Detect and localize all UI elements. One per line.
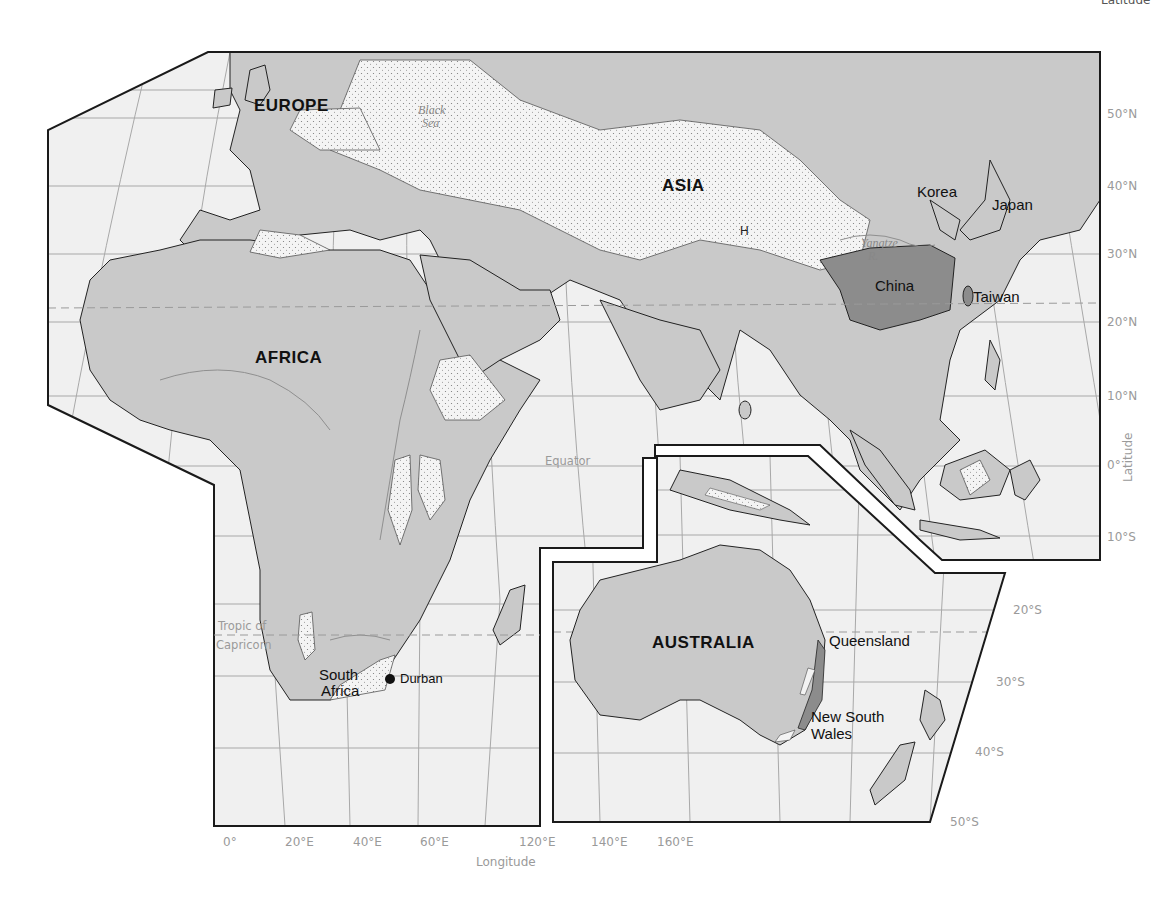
svg-text:120°E: 120°E bbox=[519, 835, 556, 849]
label-china: China bbox=[875, 277, 915, 294]
svg-text:50°S: 50°S bbox=[950, 815, 979, 829]
label-queensland: Queensland bbox=[829, 632, 910, 649]
label-black-sea-line2: Sea bbox=[422, 116, 439, 130]
label-tropic-line1: Tropic of bbox=[217, 619, 267, 633]
label-south-africa-line1: South bbox=[319, 666, 358, 683]
longitude-tick-labels: 0° 20°E 40°E 60°E 120°E 140°E 160°E bbox=[223, 835, 694, 849]
svg-text:40°S: 40°S bbox=[975, 745, 1004, 759]
label-taiwan: Taiwan bbox=[973, 288, 1020, 305]
label-black-sea-line1: Black bbox=[418, 103, 446, 117]
label-tropic-line2: Capricorn bbox=[216, 638, 271, 652]
label-asia: ASIA bbox=[662, 176, 705, 195]
svg-text:30°N: 30°N bbox=[1107, 247, 1137, 261]
svg-text:160°E: 160°E bbox=[657, 835, 694, 849]
svg-text:40°N: 40°N bbox=[1107, 179, 1137, 193]
durban-city-marker bbox=[385, 674, 395, 684]
label-nsw-line2: Wales bbox=[811, 725, 852, 742]
map-canvas: EUROPE ASIA AFRICA AUSTRALIA Korea Japan… bbox=[0, 0, 1174, 910]
label-australia: AUSTRALIA bbox=[652, 633, 755, 652]
label-korea: Korea bbox=[917, 183, 958, 200]
label-yangtze-line2: R. bbox=[867, 249, 878, 263]
svg-text:50°N: 50°N bbox=[1107, 107, 1137, 121]
label-durban: Durban bbox=[400, 671, 443, 686]
svg-text:20°E: 20°E bbox=[285, 835, 314, 849]
svg-text:0°: 0° bbox=[1107, 458, 1121, 472]
latitude-axis-top-partial: Latitude bbox=[1101, 0, 1150, 7]
label-equator: Equator bbox=[545, 454, 590, 468]
svg-text:40°E: 40°E bbox=[353, 835, 382, 849]
label-africa: AFRICA bbox=[255, 348, 322, 367]
svg-text:20°N: 20°N bbox=[1107, 315, 1137, 329]
svg-text:60°E: 60°E bbox=[420, 835, 449, 849]
label-nsw-line1: New South bbox=[811, 708, 884, 725]
longitude-axis-label: Longitude bbox=[476, 855, 536, 869]
label-europe: EUROPE bbox=[254, 96, 329, 115]
latitude-axis-label: Latitude bbox=[1121, 433, 1135, 482]
label-japan: Japan bbox=[992, 196, 1033, 213]
svg-text:140°E: 140°E bbox=[591, 835, 628, 849]
label-south-africa-line2: Africa bbox=[321, 682, 360, 699]
svg-text:0°: 0° bbox=[223, 835, 237, 849]
label-highlands-marker: H bbox=[740, 224, 749, 238]
svg-text:10°N: 10°N bbox=[1107, 389, 1137, 403]
svg-text:20°S: 20°S bbox=[1013, 603, 1042, 617]
svg-text:30°S: 30°S bbox=[996, 675, 1025, 689]
label-yangtze-line1: Yangtze bbox=[861, 236, 899, 250]
svg-text:10°S: 10°S bbox=[1107, 530, 1136, 544]
